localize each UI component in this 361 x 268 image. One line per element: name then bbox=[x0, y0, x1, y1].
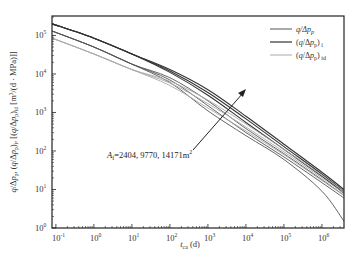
y-axis-title: q/Δpp, (q/Δpp)i, [(q/Δpp)id [m3/(d · MPa… bbox=[8, 51, 19, 192]
y-tick-label: 100 bbox=[35, 222, 47, 233]
x-tick-label: 100 bbox=[90, 232, 102, 243]
legend-label-1: (q/Δpp) i bbox=[296, 38, 323, 48]
x-tick-label: 106 bbox=[318, 232, 330, 243]
legend-label-0: q/Δpp bbox=[296, 25, 314, 35]
x-tick-label: 105 bbox=[280, 232, 292, 243]
x-tick-label: 10-1 bbox=[52, 232, 65, 243]
y-tick-label: 105 bbox=[35, 29, 47, 40]
legend: q/Δpp (q/Δpp) i (q/Δpp) id bbox=[270, 25, 326, 61]
legend-label-2: (q/Δpp) id bbox=[296, 51, 326, 61]
annotation-text: Af=2404, 9770, 14171m2 bbox=[106, 149, 192, 161]
y-tick-label: 104 bbox=[35, 68, 47, 79]
y-tick-label: 102 bbox=[35, 145, 47, 156]
y-tick-label: 101 bbox=[35, 183, 47, 194]
x-tick-label: 102 bbox=[166, 232, 178, 243]
log-log-chart: 10-1100101102103104105106 10010110210310… bbox=[0, 0, 361, 268]
x-axis-title: tca (d) bbox=[180, 239, 200, 250]
x-tick-label: 104 bbox=[242, 232, 254, 243]
arrow-head-icon bbox=[238, 89, 246, 97]
y-tick-label: 103 bbox=[35, 106, 47, 117]
annotation: Af=2404, 9770, 14171m2 bbox=[106, 89, 246, 161]
y-axis-ticks: 100101102103104105 bbox=[35, 17, 56, 233]
series-line bbox=[52, 38, 344, 193]
x-tick-label: 103 bbox=[204, 232, 216, 243]
x-tick-label: 101 bbox=[128, 232, 140, 243]
